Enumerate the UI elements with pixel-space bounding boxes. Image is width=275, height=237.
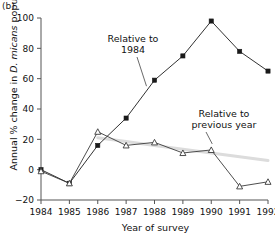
data-point-marker bbox=[209, 19, 213, 23]
x-axis-tick-label: 1991 bbox=[228, 207, 251, 217]
x-axis-tick-label: 1990 bbox=[200, 207, 223, 217]
annotation-label-relative-to-1984-line2: 1984 bbox=[121, 44, 145, 55]
x-axis-tick-label: 1992 bbox=[257, 207, 275, 217]
chart-plot-area: −20020406080100 198419851986198719881989… bbox=[0, 0, 275, 237]
annotations-group: Relative to1984Relative toprevious year bbox=[108, 33, 257, 144]
x-axis-tick-label: 1986 bbox=[86, 207, 109, 217]
annotation-label-relative-to-previous-year: Relative to bbox=[199, 108, 250, 119]
x-axis-tick-label: 1987 bbox=[115, 207, 138, 217]
data-point-marker bbox=[238, 49, 242, 53]
data-series-group bbox=[38, 19, 271, 189]
x-axis-tick-label: 1984 bbox=[30, 207, 53, 217]
x-axis-tick-label: 1989 bbox=[171, 207, 194, 217]
y-axis-tick-label: 60 bbox=[23, 74, 35, 84]
data-point-marker bbox=[124, 116, 128, 120]
data-point-marker bbox=[181, 54, 185, 58]
series-polyline bbox=[41, 21, 268, 183]
y-axis-tick-label: 80 bbox=[23, 44, 35, 54]
y-axis-tick-label: 40 bbox=[23, 104, 35, 114]
annotation-leader-line-1 bbox=[137, 57, 147, 86]
x-axis: 198419851986198719881989199019911992 bbox=[30, 200, 275, 217]
y-axis-tick-label: 0 bbox=[28, 165, 34, 175]
data-point-marker bbox=[265, 179, 271, 185]
y-axis-tick-label: 20 bbox=[23, 135, 35, 145]
data-point-marker bbox=[152, 78, 156, 82]
annotation-label-relative-to-previous-year-line2: previous year bbox=[192, 119, 257, 130]
y-axis: −20020406080100 bbox=[15, 13, 41, 205]
y-axis-tick-label: 100 bbox=[17, 13, 34, 23]
x-axis-tick-label: 1988 bbox=[143, 207, 166, 217]
data-point-marker bbox=[96, 143, 100, 147]
annotation-leader-line-2 bbox=[206, 132, 212, 144]
x-axis-tick-label: 1985 bbox=[58, 207, 81, 217]
data-point-marker bbox=[266, 69, 270, 73]
data-point-marker bbox=[95, 129, 101, 135]
annotation-label-relative-to-1984: Relative to bbox=[108, 33, 159, 44]
y-axis-tick-label: −20 bbox=[15, 195, 34, 205]
figure-panel-b: (b) Annual % change in D. micans populat… bbox=[0, 0, 275, 237]
